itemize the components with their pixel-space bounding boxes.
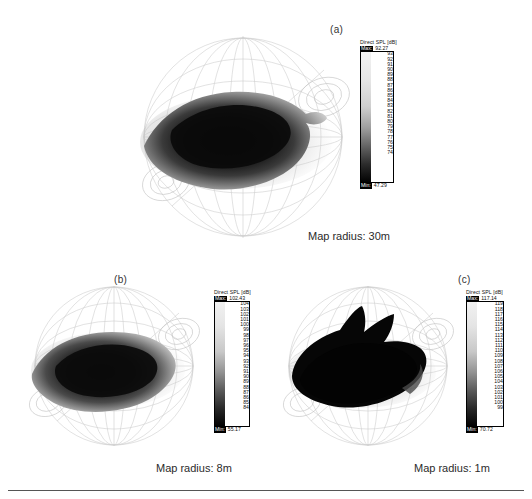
panel-a-colorbar-min: Min: 47.29	[360, 183, 397, 188]
panel-b-balloon-plot	[16, 284, 212, 450]
figure-bottom-rule	[8, 490, 524, 491]
panel-b-min-value: 55.17	[226, 427, 241, 432]
panel-c-colorbar-ticks: 119 118 117 116 115 114 113 112 111 110 …	[477, 301, 504, 410]
panel-a-min-label: Min:	[360, 183, 372, 188]
colorbar-tick: 84	[225, 405, 250, 410]
panel-a-sphere-wireframe	[128, 34, 358, 244]
panel-b-colorbar-body: 104 103 102 101 100 99 98 97 96 95 94 93…	[214, 301, 250, 427]
panel-b-colorbar: Direct SPL [dB] Max: 102.43 104 103 102 …	[214, 290, 251, 433]
panel-a-min-value: 47.29	[372, 183, 387, 188]
panel-c-min-value: 70.72	[478, 427, 493, 432]
panel-c-min-label: Min:	[466, 427, 478, 432]
panel-a-colorbar: Direct SPL [dB] Max: 92.27 93 92 91 90 8…	[360, 40, 397, 189]
panel-a: (a)	[118, 18, 418, 258]
panel-b-sphere-wireframe	[16, 284, 212, 450]
panel-c-colorbar-body: 119 118 117 116 115 114 113 112 111 110 …	[466, 301, 504, 427]
panel-b-min-label: Min:	[214, 427, 226, 432]
panel-c-colorbar: Direct SPL [dB] Max: 117.14 119 118 117 …	[466, 290, 504, 433]
panel-c-balloon-plot	[270, 284, 466, 450]
panel-a-caption: Map radius: 30m	[308, 230, 390, 242]
panel-c-sphere-wireframe	[270, 284, 466, 450]
panel-c-colorbar-gradient	[466, 301, 477, 427]
panel-b-colorbar-gradient	[214, 301, 225, 427]
panel-a-colorbar-body: 93 92 91 90 89 88 87 86 85 84 83 82 81 8…	[360, 51, 394, 183]
panel-a-colorbar-gradient	[360, 51, 371, 183]
panel-b-colorbar-min: Min: 55.17	[214, 427, 251, 432]
panel-b-colorbar-ticks: 104 103 102 101 100 99 98 97 96 95 94 93…	[225, 301, 250, 410]
panel-b: (b)	[8, 272, 270, 482]
panel-b-caption: Map radius: 8m	[156, 462, 232, 474]
panel-c-caption: Map radius: 1m	[414, 462, 490, 474]
panel-c: (c)	[262, 272, 528, 482]
figure-canvas: (a)	[0, 0, 532, 499]
panel-a-colorbar-ticks: 93 92 91 90 89 88 87 86 85 84 83 82 81 8…	[371, 51, 394, 155]
panel-c-colorbar-min: Min: 70.72	[466, 427, 504, 432]
panel-a-balloon-plot	[128, 34, 358, 244]
colorbar-tick: 74	[371, 150, 394, 155]
colorbar-tick: 99	[477, 405, 504, 410]
